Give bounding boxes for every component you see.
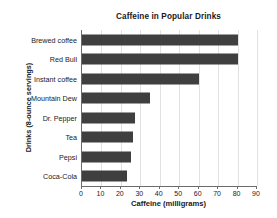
- bar[interactable]: [82, 73, 199, 84]
- x-axis-title: Caffeine (milligrams): [81, 199, 256, 208]
- x-tick-label: 70: [207, 190, 227, 197]
- bar[interactable]: [82, 171, 127, 182]
- bar-band: [82, 147, 257, 167]
- x-tick-label: 10: [90, 190, 110, 197]
- plot-area: [81, 30, 257, 187]
- y-axis-tick-label: Tea: [7, 133, 77, 142]
- x-tick-label: 90: [246, 190, 266, 197]
- bar-band: [82, 30, 257, 50]
- bar[interactable]: [82, 132, 133, 143]
- bar-band: [82, 89, 257, 109]
- y-axis-tick-label: Mountain Dew: [7, 94, 77, 103]
- x-tick-mark: [178, 186, 179, 189]
- x-axis-ticks: 0102030405060708090: [81, 186, 256, 200]
- y-axis-tick-label: Dr. Pepper: [7, 113, 77, 122]
- y-axis-tick-label: Brewed coffee: [7, 35, 77, 44]
- x-tick-mark: [217, 186, 218, 189]
- gridline: [257, 30, 258, 186]
- bar[interactable]: [82, 93, 150, 104]
- x-tick-mark: [120, 186, 121, 189]
- bar-band: [82, 69, 257, 89]
- x-tick-mark: [139, 186, 140, 189]
- x-tick-label: 60: [188, 190, 208, 197]
- y-axis-tick-label: Instant coffee: [7, 74, 77, 83]
- y-axis-category-labels: Brewed coffeeRed BullInstant coffeeMount…: [5, 30, 77, 186]
- x-tick-label: 50: [168, 190, 188, 197]
- y-axis-tick-label: Pepsi: [7, 152, 77, 161]
- x-tick-label: 20: [110, 190, 130, 197]
- bar[interactable]: [82, 151, 131, 162]
- x-tick-label: 40: [149, 190, 169, 197]
- bar[interactable]: [82, 34, 238, 45]
- x-tick-mark: [198, 186, 199, 189]
- bar-band: [82, 50, 257, 70]
- bar[interactable]: [82, 112, 135, 123]
- x-tick-label: 30: [129, 190, 149, 197]
- bar-band: [82, 167, 257, 187]
- x-tick-mark: [159, 186, 160, 189]
- bar[interactable]: [82, 54, 238, 65]
- x-tick-label: 0: [71, 190, 91, 197]
- x-tick-mark: [81, 186, 82, 189]
- chart-figure: Caffeine in Popular Drinks Drinks (8-oun…: [0, 0, 277, 218]
- x-tick-mark: [256, 186, 257, 189]
- x-tick-mark: [237, 186, 238, 189]
- bar-band: [82, 108, 257, 128]
- x-tick-mark: [100, 186, 101, 189]
- y-axis-tick-label: Red Bull: [7, 55, 77, 64]
- x-tick-label: 80: [227, 190, 247, 197]
- bar-band: [82, 128, 257, 148]
- chart-title: Caffeine in Popular Drinks: [81, 12, 256, 22]
- y-axis-tick-label: Coca-Cola: [7, 172, 77, 181]
